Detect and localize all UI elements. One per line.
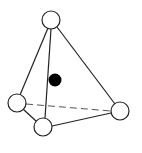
vertex-left <box>8 94 26 112</box>
edge-left-right-hidden <box>26 104 111 111</box>
edge-bottom-right <box>52 113 111 126</box>
edge-top-left <box>20 28 48 95</box>
edges <box>20 27 115 126</box>
center-atom <box>49 74 62 87</box>
edge-left-bottom <box>23 109 36 121</box>
vertex-top <box>42 11 60 29</box>
vertices <box>8 11 129 136</box>
vertex-right <box>111 102 129 120</box>
edge-top-bottom <box>45 29 51 118</box>
tetrahedron-diagram <box>0 0 142 153</box>
edge-top-right <box>57 27 115 104</box>
vertex-bottom <box>34 118 52 136</box>
